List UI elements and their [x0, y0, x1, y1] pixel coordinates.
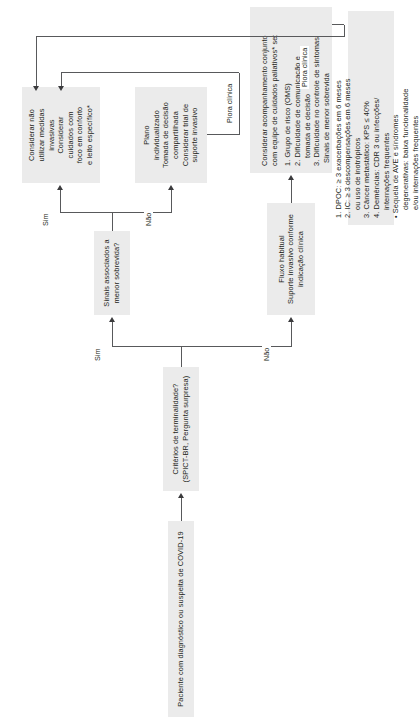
- node-signs-item-5-cont2: e/ou internações frequentes: [411, 18, 420, 218]
- arrowhead-worsening-upper: [58, 86, 64, 91]
- arrowhead-start-to-criteria: [178, 493, 184, 498]
- edge-label-survival-yes: Sim: [41, 212, 50, 228]
- connector-survival-yes: [60, 189, 61, 213]
- arrowhead-usual-to-palliative: [288, 175, 294, 180]
- edge-label-criteria-no: Não: [262, 346, 271, 363]
- node-survival: Sinais associados a menor sobrevida?: [94, 231, 130, 315]
- connector-criteria-trunk: [181, 347, 182, 367]
- arrowhead-survival-no: [168, 185, 174, 190]
- connector-worsening-upper-into: [61, 73, 62, 86]
- node-individual-plan-line-1: Plano: [142, 94, 152, 176]
- node-signs-item-2: 2. IC: ≥ 3 descompensações em 6 meses: [343, 18, 353, 218]
- node-criteria-line-1: Critérios de terminalidade?: [171, 374, 181, 484]
- connector-survival-split: [60, 212, 172, 213]
- node-signs-item-4-cont: internações frequentes: [382, 18, 392, 218]
- connector-worsening-lower-into: [36, 37, 37, 86]
- node-no-invasive-line-6: foco em conforto: [75, 94, 85, 176]
- node-start: Paciente com diagnóstico ou suspeita de …: [168, 521, 194, 717]
- node-signs-item-5: • Sequela de AVE e síndromes: [391, 18, 401, 218]
- node-signs-item-3: 3. Câncer metastático: KPS ≤ 40%: [362, 18, 372, 218]
- node-no-invasive-line-2: utilizar medidas: [37, 94, 47, 176]
- node-palliative: Considerar acompanhamento conjunto com e…: [250, 7, 332, 173]
- connector-worsening-upper-end: [61, 72, 239, 73]
- node-signs-title: Sinais de menor sobrevida: [322, 18, 332, 218]
- connector-worsening-lower-start: [332, 24, 344, 25]
- connector-start-to-criteria: [181, 497, 182, 521]
- node-individual-plan: Plano individualizado Tomada de decisão …: [135, 87, 207, 183]
- connector-worsening-upper-mid: [239, 73, 240, 135]
- connector-survival-no: [171, 189, 172, 213]
- node-criteria-line-2: (SPICT-BR, Pergunta surpresa): [181, 374, 191, 484]
- connector-usual-to-palliative: [291, 179, 292, 203]
- node-signs-of-lower-survival: Sinais de menor sobrevida 1. DPOC: ≥ 3 e…: [348, 11, 394, 225]
- node-usual-flow-line-2: Suporte invasivo conforme: [286, 210, 296, 308]
- node-individual-plan-line-2: individualizado: [152, 94, 162, 176]
- arrowhead-survival-yes: [57, 185, 63, 190]
- node-usual-flow: Fluxo habitual Suporte invasivo conforme…: [267, 203, 315, 315]
- arrowhead-criteria-yes: [109, 317, 115, 322]
- arrowhead-worsening-lower: [33, 86, 39, 91]
- arrowhead-criteria-no: [288, 317, 294, 322]
- connector-worsening-lower-rise: [36, 36, 344, 37]
- node-start-line-1: Paciente com diagnóstico ou suspeita de …: [176, 528, 186, 710]
- node-signs-item-1: 1. DPOC: ≥ 3 exacerbações em 6 meses: [334, 18, 344, 218]
- connector-criteria-yes: [112, 321, 113, 347]
- node-no-invasive-line-4: Considerar: [56, 94, 66, 176]
- node-individual-plan-line-4: compartilhada: [171, 94, 181, 176]
- node-individual-plan-line-3: Tomada de decisão: [161, 94, 171, 176]
- node-individual-plan-line-6: suporte invasivo: [190, 94, 200, 176]
- node-survival-line-2: menor sobrevida?: [112, 238, 122, 308]
- node-individual-plan-line-5: Considerar trial de: [181, 94, 191, 176]
- node-no-invasive-line-7: e leito específico*: [85, 94, 95, 176]
- node-no-invasive-line-3: invasivas: [47, 94, 57, 176]
- edge-label-worsening-upper: Piora clínica: [225, 82, 234, 125]
- node-survival-line-1: Sinais associados a: [102, 238, 112, 308]
- connector-criteria-no: [291, 321, 292, 347]
- node-criteria: Critérios de terminalidade? (SPICT-BR, P…: [163, 367, 199, 491]
- edge-label-survival-no: Não: [144, 211, 153, 228]
- edge-label-criteria-yes: Sim: [93, 347, 102, 363]
- node-no-invasive-line-1: Considerar não: [27, 94, 37, 176]
- edge-label-worsening-lower: Piora clínica: [300, 46, 309, 89]
- node-signs-item-2-cont: ou uso de inotrópicos: [353, 18, 363, 218]
- node-no-invasive-line-5: cuidados com: [66, 94, 76, 176]
- node-no-invasive: Considerar não utilizar medidas invasiva…: [22, 87, 100, 183]
- node-usual-flow-line-3: indicação clínica: [296, 210, 306, 308]
- connector-worsening-lower-mid: [344, 25, 345, 37]
- connector-worsening-upper-start: [207, 134, 239, 135]
- connector-survival-trunk: [112, 213, 113, 231]
- node-usual-flow-line-1: Fluxo habitual: [277, 210, 287, 308]
- node-signs-item-4: 4. Demências: CDR 3 ou infecções/: [372, 18, 382, 218]
- node-signs-item-5-cont: degenerativas: baixa funcionalidade: [401, 18, 411, 218]
